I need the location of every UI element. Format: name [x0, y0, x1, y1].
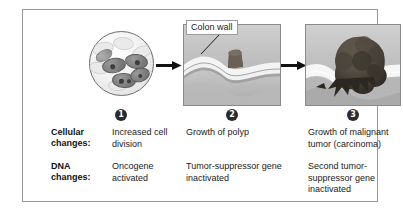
stage-3-dna-change: Second tumor-suppressor gene inactivated [308, 161, 403, 196]
colon-wall-callout-label: Colon wall [186, 20, 238, 35]
stage-3-cellular-change: Growth of malignant tumor (carcinoma) [308, 127, 403, 150]
dna-changes-row-label: DNA changes: [51, 161, 109, 183]
dna-changes-label-line1: DNA [51, 161, 109, 172]
dividing-cells-micrograph [89, 31, 154, 96]
stage-3-badge: 3 [347, 109, 359, 121]
stage-2-to-3-arrow [281, 60, 307, 71]
stage-2-dna-change: Tumor-suppressor gene inactivated [186, 161, 298, 184]
nucleus [110, 64, 116, 70]
cellular-changes-label-line1: Cellular [51, 127, 109, 138]
colon-cancer-progression-figure: Colon wall [0, 0, 403, 211]
polyp [228, 49, 243, 68]
nucleus [135, 60, 141, 66]
stage-2-badge: 2 [226, 109, 238, 121]
stage-1-badge: 1 [115, 109, 127, 121]
cellular-changes-label-line2: changes: [51, 138, 109, 149]
dna-changes-label-line2: changes: [51, 172, 109, 183]
colon-wall-malignant-tumor-illustration [305, 24, 401, 106]
stage-1-to-2-arrow [156, 60, 182, 71]
stage-2-cellular-change: Growth of polyp [186, 127, 298, 139]
nucleus [119, 79, 124, 84]
cellular-changes-row-label: Cellular changes: [51, 127, 109, 149]
stage-1-cellular-change: Increased cell division [112, 127, 178, 150]
stage-1-dna-change: Oncogene activated [112, 161, 178, 184]
pale-cell [112, 36, 135, 52]
colon-wall-polyp-illustration [183, 24, 281, 106]
colon-wall-leader-line [199, 34, 221, 56]
nucleus [138, 73, 143, 78]
figure-frame: Colon wall [22, 9, 378, 202]
